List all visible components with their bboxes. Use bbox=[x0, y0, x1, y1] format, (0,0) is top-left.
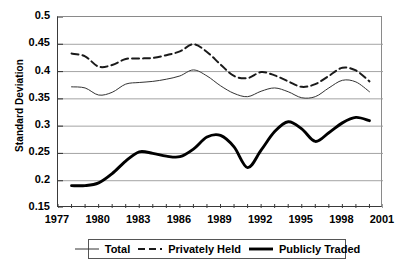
x-tick-label: 1992 bbox=[238, 213, 282, 225]
chart-title-remnant bbox=[0, 0, 419, 6]
chart-legend: TotalPrivately HeldPublicly Traded bbox=[88, 239, 346, 259]
x-tick-label: 1977 bbox=[35, 213, 79, 225]
y-tick-label: 0.3 bbox=[10, 118, 50, 130]
legend-swatch-thick-solid bbox=[248, 244, 274, 254]
data-series-layer bbox=[58, 17, 383, 208]
legend-label: Privately Held bbox=[168, 243, 241, 255]
series-line-publicly-traded bbox=[72, 117, 370, 185]
x-tick-label: 2001 bbox=[360, 213, 404, 225]
y-tick-label: 0.5 bbox=[10, 9, 50, 21]
x-tick-label: 1995 bbox=[279, 213, 323, 225]
legend-label: Publicly Traded bbox=[279, 243, 360, 255]
chart-container: Standard Deviation 0.150.20.250.30.350.4… bbox=[0, 0, 419, 266]
legend-label: Total bbox=[105, 243, 130, 255]
series-line-privately-held bbox=[72, 44, 370, 87]
legend-entry-total[interactable]: Total bbox=[74, 243, 130, 255]
legend-entry-publicly-traded[interactable]: Publicly Traded bbox=[248, 243, 360, 255]
legend-swatch-dashed bbox=[137, 244, 163, 254]
x-tick-label: 1998 bbox=[319, 213, 363, 225]
legend-entry-privately-held[interactable]: Privately Held bbox=[137, 243, 241, 255]
x-tick-label: 1980 bbox=[76, 213, 120, 225]
series-line-total bbox=[72, 70, 370, 98]
legend-swatch-thin-solid bbox=[74, 244, 100, 254]
y-tick-label: 0.15 bbox=[10, 200, 50, 212]
y-tick-label: 0.45 bbox=[10, 36, 50, 48]
y-tick-label: 0.4 bbox=[10, 64, 50, 76]
x-tick-label: 1989 bbox=[198, 213, 242, 225]
x-tick-label: 1986 bbox=[157, 213, 201, 225]
y-tick-label: 0.2 bbox=[10, 173, 50, 185]
y-tick-label: 0.25 bbox=[10, 145, 50, 157]
y-tick-label: 0.35 bbox=[10, 91, 50, 103]
plot-area bbox=[57, 16, 382, 207]
x-tick-label: 1983 bbox=[116, 213, 160, 225]
